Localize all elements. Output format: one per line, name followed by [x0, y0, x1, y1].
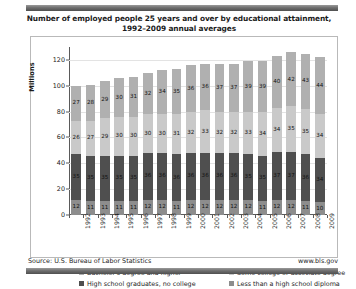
bar-segment[interactable]: 30 [129, 117, 138, 156]
bar-segment[interactable]: 29 [100, 118, 109, 155]
bar-segment[interactable]: 36 [200, 153, 209, 200]
bar-segment[interactable]: 36 [186, 153, 195, 200]
bar-column[interactable]: 36333612 [200, 64, 209, 215]
bar-segment[interactable]: 36 [215, 153, 224, 200]
bar-value-label: 11 [259, 205, 266, 211]
bar-segment[interactable]: 36 [143, 153, 152, 200]
bar-segment[interactable]: 27 [86, 121, 95, 156]
bar-value-label: 42 [288, 77, 295, 83]
bar-segment[interactable]: 30 [114, 117, 123, 156]
bar-segment[interactable]: 35 [243, 154, 252, 199]
legend-item[interactable]: High school graduates, no college [79, 280, 229, 288]
bar-column[interactable]: 28273511 [86, 85, 95, 215]
bar-segment[interactable]: 42 [286, 52, 295, 106]
bar-segment[interactable]: 34 [315, 158, 324, 202]
bar-segment[interactable]: 32 [229, 112, 238, 153]
bar-segment[interactable]: 35 [71, 154, 80, 199]
bar-segment[interactable]: 37 [215, 64, 224, 112]
bar-column[interactable]: 37323612 [229, 64, 238, 215]
x-tick-mark [241, 215, 242, 218]
bar-segment[interactable]: 28 [86, 85, 95, 121]
bar-column[interactable]: 43353611 [301, 54, 310, 216]
bar-column[interactable]: 40343712 [272, 56, 281, 215]
bar-segment[interactable]: 35 [100, 156, 109, 201]
bar-segment[interactable]: 36 [186, 65, 195, 112]
bar-segment[interactable]: 27 [71, 86, 80, 121]
bar-column[interactable]: 39333512 [243, 61, 252, 215]
bar-segment[interactable]: 32 [143, 73, 152, 114]
bar-segment[interactable]: 30 [143, 114, 152, 153]
bar-segment[interactable]: 29 [100, 81, 109, 118]
bar-segment[interactable]: 37 [272, 152, 281, 200]
bar-segment[interactable]: 34 [315, 114, 324, 158]
bar-column[interactable]: 36323612 [186, 65, 195, 215]
bar-column[interactable]: 39343511 [258, 61, 267, 215]
bar-segment[interactable]: 36 [200, 64, 209, 111]
plot-frame: Millions 020406080100120 272635122827351… [30, 36, 338, 258]
bar-column[interactable]: 34303612 [157, 70, 166, 215]
bar-column[interactable]: 37323612 [215, 64, 224, 215]
bar-value-label: 10 [316, 206, 323, 212]
bar-segment[interactable]: 33 [200, 110, 209, 153]
bar-segment[interactable]: 39 [243, 61, 252, 111]
bar-value-label: 12 [273, 204, 280, 210]
bar-segment[interactable]: 34 [272, 108, 281, 152]
bar-segment[interactable]: 35 [129, 156, 138, 201]
bar-value-label: 12 [288, 204, 295, 210]
bottom-decorative-rule [26, 268, 338, 274]
bar-segment[interactable]: 30 [114, 78, 123, 117]
bar-segment[interactable]: 37 [229, 64, 238, 112]
bar-segment[interactable]: 35 [258, 156, 267, 201]
x-tick-label: 2005 [270, 213, 277, 229]
bar-segment[interactable]: 35 [86, 156, 95, 201]
bar-value-label: 35 [259, 175, 266, 181]
bar-segment[interactable]: 35 [286, 106, 295, 151]
bar-segment[interactable]: 33 [243, 112, 252, 155]
bar-segment[interactable]: 37 [286, 152, 295, 200]
bar-segment[interactable]: 43 [301, 54, 310, 110]
bar-segment[interactable]: 34 [258, 112, 267, 156]
bar-segment[interactable]: 32 [186, 112, 195, 153]
bar-segment[interactable]: 34 [157, 70, 166, 114]
bar-segment[interactable]: 35 [301, 109, 310, 154]
bar-column[interactable]: 44343410 [315, 57, 324, 215]
bar-segment[interactable]: 31 [172, 114, 181, 154]
bar-segment[interactable]: 30 [157, 114, 166, 153]
x-tick-mark [313, 215, 314, 218]
bar-value-label: 33 [245, 130, 252, 136]
bar-segment[interactable]: 36 [172, 154, 181, 201]
bar-segment[interactable]: 36 [157, 153, 166, 200]
y-tick-label: 120 [53, 56, 69, 64]
bar-segment[interactable]: 31 [129, 77, 138, 117]
x-tick-mark [155, 215, 156, 218]
bar-segment[interactable]: 26 [71, 121, 80, 155]
bar-column[interactable]: 35313611 [172, 69, 181, 215]
bar-column[interactable]: 27263512 [71, 86, 80, 215]
bar-segment[interactable]: 36 [229, 153, 238, 200]
bar-segment[interactable]: 40 [272, 56, 281, 108]
legend-swatch-icon [229, 281, 234, 286]
bar-segment[interactable]: 35 [172, 69, 181, 114]
x-tick-label: 1997 [156, 213, 163, 229]
bar-value-label: 12 [159, 204, 166, 210]
bar-segment[interactable]: 44 [315, 57, 324, 114]
bar-column[interactable]: 32303612 [143, 73, 152, 215]
legend-item[interactable]: Less than a high school diploma [229, 280, 356, 288]
bar-column[interactable]: 42353712 [286, 52, 295, 215]
y-axis-label: Millions [28, 47, 36, 107]
bar-segment[interactable]: 36 [301, 154, 310, 201]
bar-value-label: 37 [273, 173, 280, 179]
y-tick-label: 100 [53, 82, 69, 90]
bar-segment[interactable]: 12 [71, 200, 80, 216]
bar-segment[interactable]: 32 [215, 112, 224, 153]
legend-swatch-icon [79, 281, 84, 286]
bar-column[interactable]: 29293511 [100, 81, 109, 215]
bar-segment[interactable]: 35 [114, 156, 123, 201]
bar-column[interactable]: 30303511 [114, 78, 123, 215]
bar-segment[interactable]: 39 [258, 61, 267, 111]
x-tick-mark [126, 215, 127, 218]
bar-value-label: 36 [159, 173, 166, 179]
bar-column[interactable]: 31303511 [129, 77, 138, 215]
website-link[interactable]: www.bls.gov [298, 257, 338, 265]
chart-title: Number of employed people 25 years and o… [18, 14, 340, 34]
